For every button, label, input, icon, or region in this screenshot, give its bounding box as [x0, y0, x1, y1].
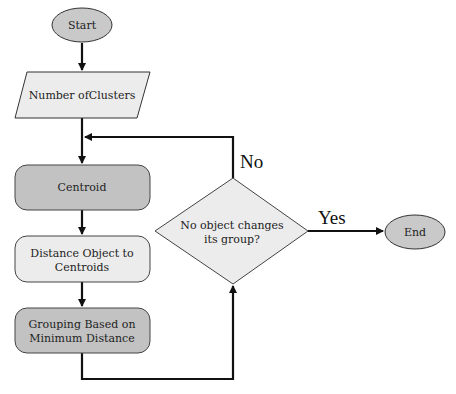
grouping-label-line2: Minimum Distance [29, 332, 135, 345]
grouping-node: Grouping Based on Minimum Distance [15, 308, 150, 353]
centroid-node: Centroid [15, 165, 150, 210]
end-node: End [385, 215, 445, 249]
decision-node: No object changes its group? [155, 178, 308, 284]
end-label: End [404, 226, 426, 239]
distance-label-line2: Centroids [55, 261, 110, 274]
decision-label-line1: No object changes [180, 219, 284, 232]
distance-label-line1: Distance Object to [30, 247, 134, 260]
number-of-clusters-label: Number ofClusters [29, 89, 136, 102]
number-of-clusters-node: Number ofClusters [15, 72, 150, 118]
start-node: Start [52, 8, 112, 42]
grouping-label-line1: Grouping Based on [29, 318, 136, 331]
decision-label-line2: its group? [204, 233, 260, 246]
centroid-label: Centroid [58, 181, 107, 194]
start-label: Start [68, 19, 97, 32]
edge-label-no: No [240, 151, 263, 172]
distance-node: Distance Object to Centroids [15, 236, 150, 282]
edge-label-yes: Yes [318, 207, 346, 228]
flowchart-canvas: Start Number ofClusters Centroid Distanc… [0, 0, 456, 394]
